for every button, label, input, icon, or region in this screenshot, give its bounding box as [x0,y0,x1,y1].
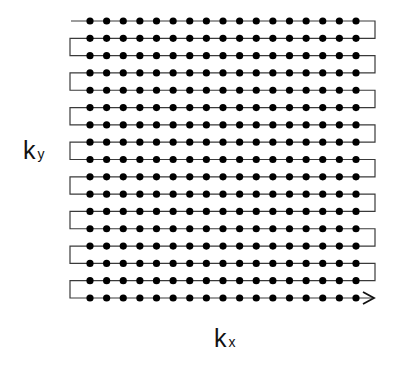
sample-point [136,208,143,215]
sample-point [219,260,226,267]
sample-point [136,260,143,267]
sample-point [153,121,160,128]
sample-point [336,69,343,76]
sample-point [303,225,310,232]
sample-point [303,294,310,301]
sample-point [170,139,177,146]
sample-point [136,69,143,76]
sample-point [336,294,343,301]
sample-point [219,173,226,180]
sample-point [336,208,343,215]
sample-point [170,173,177,180]
sample-point [103,35,110,42]
sample-point [319,104,326,111]
sample-point [103,87,110,94]
sample-point [336,242,343,249]
sample-point [136,17,143,24]
sample-point [120,35,127,42]
sample-point [186,208,193,215]
sample-point [203,17,210,24]
sample-point [136,277,143,284]
sample-point [86,52,93,59]
sample-point [286,87,293,94]
sample-point [269,104,276,111]
sample-point [352,69,359,76]
sample-point [153,277,160,284]
sample-point [303,208,310,215]
sample-point [269,208,276,215]
sample-point [253,191,260,198]
sample-point [303,173,310,180]
sample-point [253,208,260,215]
sample-point [120,173,127,180]
sample-point [303,17,310,24]
sample-point [86,69,93,76]
sample-point [186,294,193,301]
sample-point [319,156,326,163]
sample-point [153,69,160,76]
sample-point [103,139,110,146]
sample-point [186,173,193,180]
sample-point [153,17,160,24]
sample-point [120,69,127,76]
sample-point [253,35,260,42]
sample-point [236,260,243,267]
sample-point [136,139,143,146]
sample-point [103,208,110,215]
sample-point [336,173,343,180]
sample-point [86,87,93,94]
sample-point [286,69,293,76]
sample-point [336,17,343,24]
sample-point [269,17,276,24]
sample-point [286,104,293,111]
sample-point [236,69,243,76]
sample-point [203,208,210,215]
sample-point [253,17,260,24]
sample-point [120,156,127,163]
sample-point [186,156,193,163]
sample-point [103,242,110,249]
sample-point [253,242,260,249]
sample-point [319,69,326,76]
sample-point [236,121,243,128]
sample-point [319,225,326,232]
sample-point [120,242,127,249]
sample-point [286,277,293,284]
sample-point [153,225,160,232]
sample-point [170,225,177,232]
sample-point [219,225,226,232]
sample-point [236,173,243,180]
sample-point [203,277,210,284]
sample-point [303,35,310,42]
sample-point [170,104,177,111]
sample-point [219,121,226,128]
sample-point [236,156,243,163]
sample-point [219,69,226,76]
sample-point [103,52,110,59]
sample-point [336,277,343,284]
sample-point [286,191,293,198]
sample-point [303,121,310,128]
sample-point [120,225,127,232]
sample-point [153,173,160,180]
sample-point [336,104,343,111]
sample-point [319,260,326,267]
sample-point [186,191,193,198]
sample-point [352,156,359,163]
sample-point [286,35,293,42]
sample-point [136,35,143,42]
sample-point [103,17,110,24]
sample-point [186,69,193,76]
sample-point [86,121,93,128]
sample-point [136,156,143,163]
sample-point [286,156,293,163]
sample-point [269,191,276,198]
sample-point [186,87,193,94]
sample-point [203,35,210,42]
sample-point [303,87,310,94]
sample-point [286,242,293,249]
sample-point [236,191,243,198]
sample-point [303,139,310,146]
sample-point [319,208,326,215]
sample-point [352,277,359,284]
